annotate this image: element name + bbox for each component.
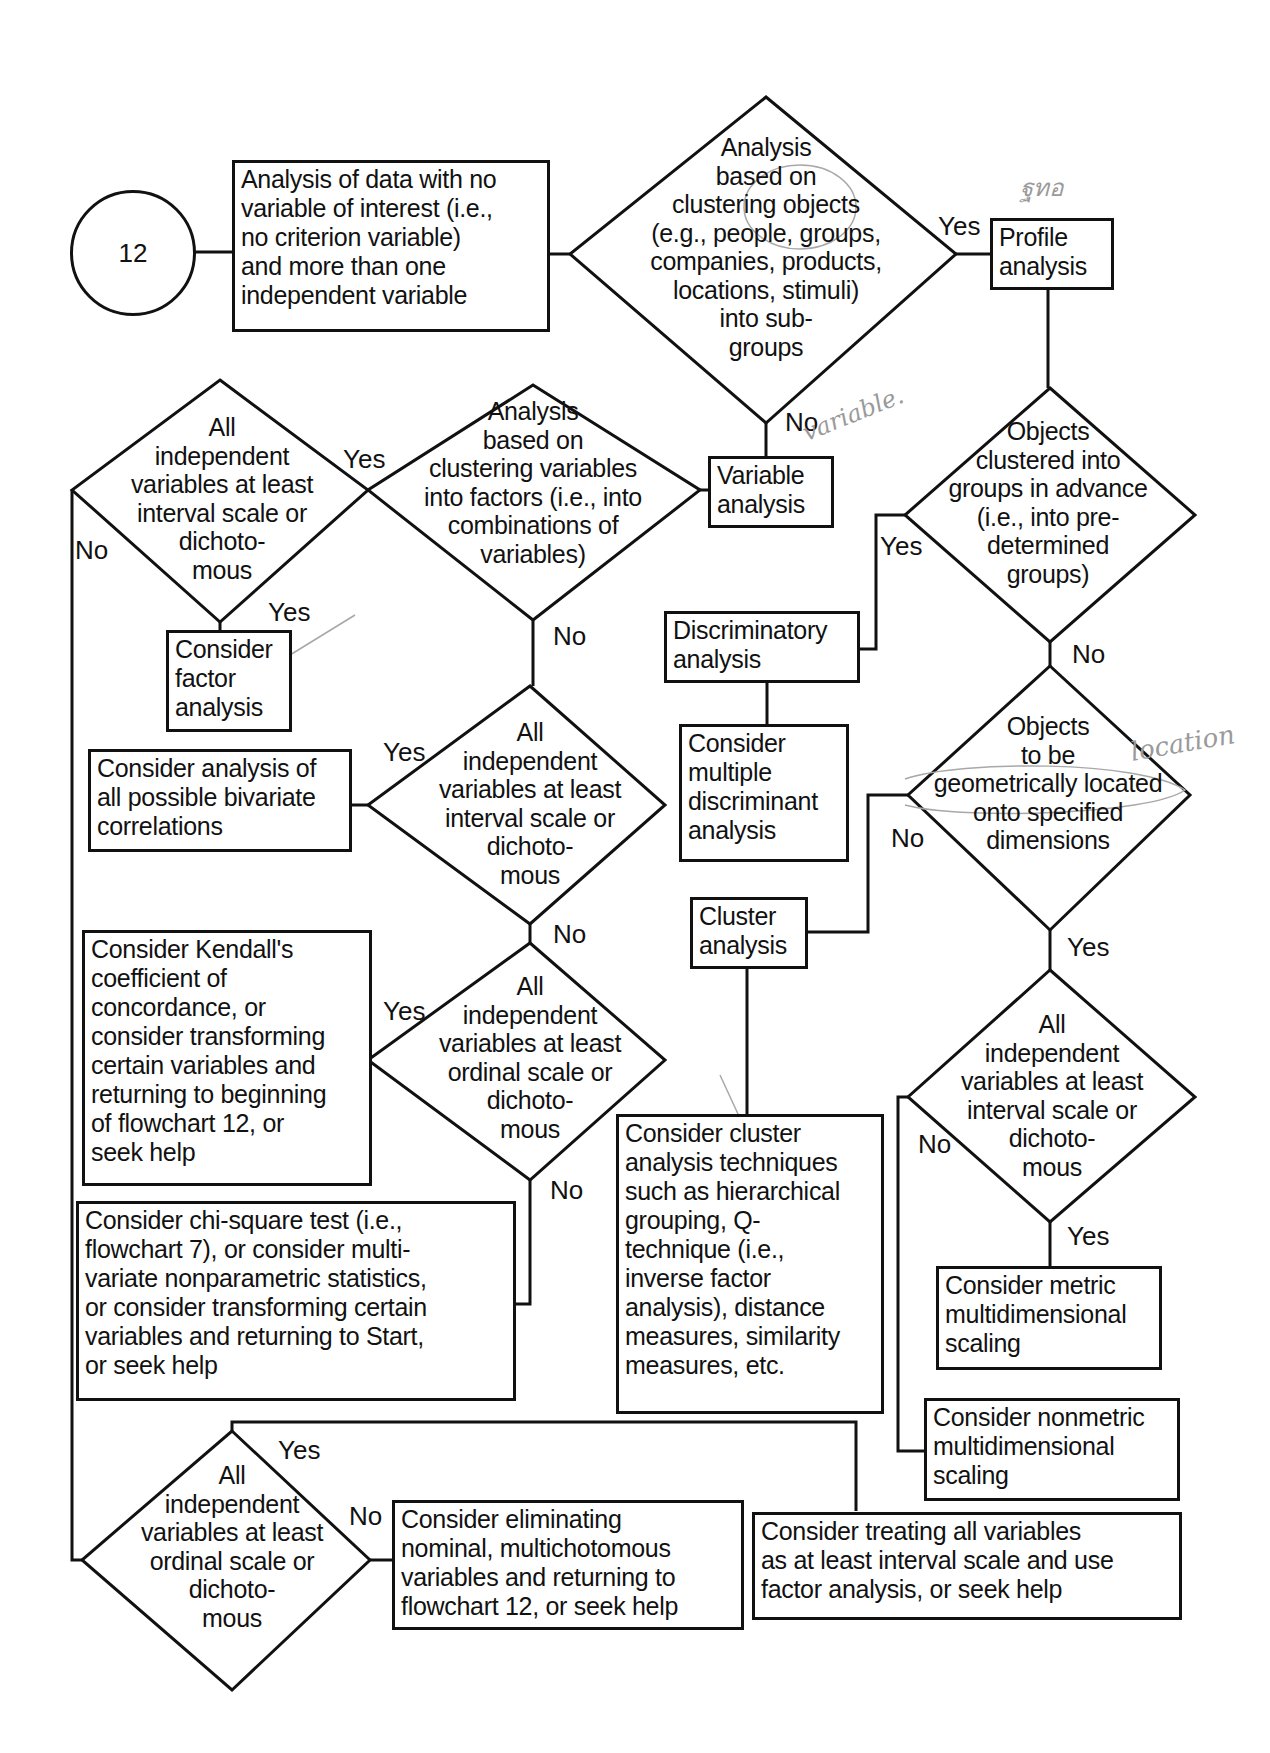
- diamond-ordinal-mid-text: All independent variables at least ordin…: [408, 972, 652, 1143]
- edge-label-no-interval-mid: No: [553, 920, 586, 948]
- start-connector-circle: 12: [70, 190, 196, 316]
- diamond-interval-mid-text: All independent variables at least inter…: [408, 718, 652, 889]
- chi-square-box: Consider chi-square test (i.e., flowchar…: [76, 1201, 516, 1401]
- factor-analysis-box: Consider factor analysis: [166, 630, 292, 732]
- diamond-interval-top-left-text: All independent variables at least inter…: [100, 413, 344, 584]
- eliminating-variables-box: Consider eliminating nominal, multichoto…: [392, 1500, 744, 1630]
- cluster-analysis-box: Cluster analysis: [690, 897, 808, 969]
- edge-label-yes-cluster-variables: Yes: [343, 445, 385, 473]
- metric-mds-box: Consider metric multidimensional scaling: [936, 1266, 1162, 1370]
- edge-label-yes-discriminatory: Yes: [880, 532, 922, 560]
- diamond-cluster-variables-text: Analysis based on clustering variables i…: [370, 397, 696, 568]
- edge-label-no-interval-right: No: [918, 1130, 951, 1158]
- edge-label-yes-factor: Yes: [268, 598, 310, 626]
- edge-label-yes-geometric: Yes: [1067, 933, 1109, 961]
- multiple-discriminant-box: Consider multiple discriminant analysis: [679, 724, 849, 862]
- start-description-box: Analysis of data with no variable of int…: [232, 160, 550, 332]
- discriminatory-analysis-box: Discriminatory analysis: [664, 611, 860, 683]
- profile-analysis-box: Profile analysis: [990, 218, 1114, 290]
- edge-label-no-ordinal-bottom: No: [349, 1502, 382, 1530]
- edge-label-yes-metric: Yes: [1067, 1222, 1109, 1250]
- edge-label-yes-kendall: Yes: [383, 997, 425, 1025]
- diamond-ordinal-bottom-text: All independent variables at least ordin…: [110, 1461, 354, 1632]
- treating-interval-box: Consider treating all variables as at le…: [752, 1512, 1182, 1620]
- cluster-techniques-box: Consider cluster analysis techniques suc…: [616, 1114, 884, 1414]
- kendall-concordance-box: Consider Kendall's coefficient of concor…: [82, 930, 372, 1186]
- edge-label-yes-bivariate: Yes: [383, 738, 425, 766]
- edge-label-yes-ordinal-bottom: Yes: [278, 1436, 320, 1464]
- flowchart-canvas: 12 Analysis of data with no variable of …: [0, 0, 1270, 1753]
- edge-label-no-top-left: No: [75, 536, 108, 564]
- nonmetric-mds-box: Consider nonmetric multidimensional scal…: [924, 1398, 1180, 1501]
- diamond-cluster-objects-text: Analysis based on clustering objects (e.…: [610, 133, 922, 361]
- start-node-number: 12: [119, 238, 148, 269]
- diamond-groups-advance-text: Objects clustered into groups in advance…: [910, 417, 1186, 588]
- handwritten-annotation-profile: ฐทอ: [1020, 168, 1063, 207]
- edge-label-no-groups-advance: No: [1072, 640, 1105, 668]
- edge-label-no-geometric: No: [891, 824, 924, 852]
- variable-analysis-box: Variable analysis: [708, 456, 834, 528]
- edge-label-yes-profile: Yes: [938, 212, 980, 240]
- diamond-interval-right-text: All independent variables at least inter…: [930, 1010, 1174, 1181]
- edge-label-no-cluster-variables: No: [553, 622, 586, 650]
- bivariate-correlations-box: Consider analysis of all possible bivari…: [88, 749, 352, 852]
- edge-label-no-chi-square: No: [550, 1176, 583, 1204]
